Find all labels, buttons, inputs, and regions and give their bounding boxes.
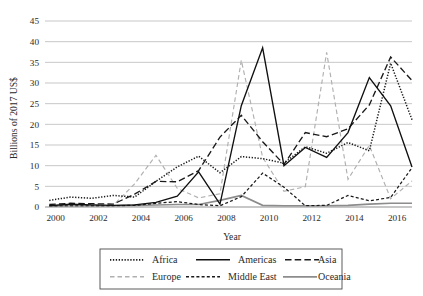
legend-label-americas: Americas <box>238 254 276 265</box>
legend-label-europe: Europe <box>152 271 181 282</box>
y-tick-label: 35 <box>30 58 40 68</box>
x-tick-label: 2004 <box>132 213 151 223</box>
y-tick-label: 45 <box>30 16 40 26</box>
y-tick-label: 30 <box>30 78 40 88</box>
legend-label-middle-east: Middle East <box>228 271 277 282</box>
chart-container: 051015202530354045 200020022004200620082… <box>0 0 423 296</box>
y-tick-label: 0 <box>34 202 39 212</box>
legend-label-africa: Africa <box>152 254 178 265</box>
x-tick-label: 2016 <box>388 213 407 223</box>
series-line-americas <box>49 48 412 206</box>
x-tick-label: 2000 <box>46 213 65 223</box>
chart-legend: AfricaAmericasAsiaEuropeMiddle EastOcean… <box>100 249 351 289</box>
gridlines-group <box>45 21 412 186</box>
x-tick-label: 2006 <box>175 213 194 223</box>
series-line-europe <box>49 52 412 205</box>
legend-frame <box>100 249 342 289</box>
y-tick-label: 40 <box>30 37 40 47</box>
x-axis-title: Year <box>223 231 241 242</box>
x-tick-label: 2014 <box>345 213 364 223</box>
x-tick-label: 2008 <box>217 213 236 223</box>
y-tick-label: 15 <box>30 140 40 150</box>
y-tick-label: 25 <box>30 99 40 109</box>
x-tick-label: 2012 <box>303 213 322 223</box>
x-tick-label: 2010 <box>260 213 279 223</box>
y-axis-title: Billions of 2017 US$ <box>8 77 19 159</box>
legend-label-asia: Asia <box>318 254 337 265</box>
series-line-africa <box>49 63 412 200</box>
x-axis-tick-labels: 200020022004200620082010201220142016 <box>46 213 406 223</box>
x-tick-label: 2002 <box>89 213 108 223</box>
legend-label-oceania: Oceania <box>318 271 351 282</box>
line-chart-figure: 051015202530354045 200020022004200620082… <box>0 0 423 296</box>
series-line-asia <box>49 57 412 205</box>
y-axis-tick-labels: 051015202530354045 <box>30 16 40 212</box>
y-tick-label: 5 <box>34 182 39 192</box>
series-line-middle-east <box>49 168 412 206</box>
y-tick-label: 10 <box>30 161 40 171</box>
data-series-group <box>49 48 412 206</box>
y-tick-label: 20 <box>30 120 40 130</box>
